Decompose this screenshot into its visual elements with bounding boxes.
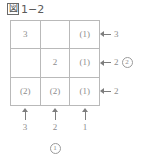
grid-cell-r0c0[interactable]: 3: [11, 21, 41, 49]
column-annotation-2: 1: [70, 106, 100, 163]
grid-cell-r0c1[interactable]: [41, 21, 71, 49]
figure-number-label: 1−2: [21, 4, 44, 15]
column-step-marker-wrap-1: 1: [50, 136, 61, 154]
grid-cell-r0c2[interactable]: (1): [70, 21, 100, 49]
column-step-marker-1: 1: [50, 143, 61, 154]
column-annotation-1: 2 1: [40, 106, 70, 163]
arrow-up-icon: [82, 108, 89, 120]
puzzle-grid: 3 (1) 2 (1) (2) (2) (1): [10, 20, 100, 106]
figure-badge-icon: 図: [7, 3, 19, 15]
column-clue-value-1: 2: [53, 123, 58, 132]
row-annotations: 3 2 2 2: [100, 20, 147, 106]
grid-cell-r1c0[interactable]: [11, 49, 41, 77]
row-step-marker-1: 2: [122, 57, 133, 68]
row-clue-value-0: 3: [114, 30, 119, 39]
arrow-up-icon: [22, 108, 29, 120]
arrow-left-icon: [100, 59, 111, 66]
column-annotations: 3 2 1 1: [10, 106, 100, 163]
arrow-left-icon: [100, 88, 111, 95]
row-clue-value-1: 2: [114, 58, 119, 67]
row-annotation-1: 2 2: [100, 49, 133, 78]
column-clue-value-2: 1: [83, 123, 88, 132]
grid-cell-r2c0[interactable]: (2): [11, 78, 41, 106]
arrow-up-icon: [52, 108, 59, 120]
grid-cell-r2c1[interactable]: (2): [41, 78, 71, 106]
column-annotation-0: 3: [10, 106, 40, 163]
row-annotation-2: 2: [100, 77, 119, 106]
arrow-left-icon: [100, 31, 111, 38]
row-clue-value-2: 2: [114, 87, 119, 96]
grid-cell-r2c2[interactable]: (1): [70, 78, 100, 106]
figure-title: 図 1−2: [7, 2, 44, 16]
grid-cell-r1c2[interactable]: (1): [70, 49, 100, 77]
grid-cell-r1c1[interactable]: 2: [41, 49, 71, 77]
row-annotation-0: 3: [100, 20, 119, 49]
column-clue-value-0: 3: [23, 123, 28, 132]
